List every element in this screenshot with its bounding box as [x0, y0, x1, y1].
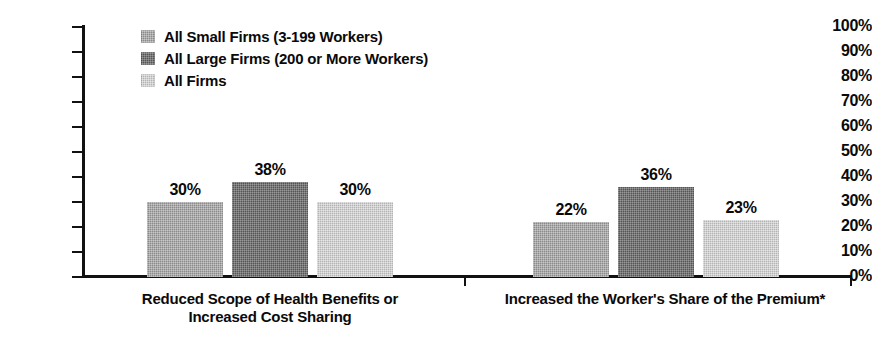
bar-value-label: 23% — [725, 199, 756, 217]
y-axis-label-70: 70% — [810, 92, 872, 110]
bar-group2-small-firms: 22% — [533, 222, 609, 277]
y-axis-tick — [72, 226, 82, 228]
category-label-group1: Reduced Scope of Health Benefits or Incr… — [100, 290, 440, 326]
legend: All Small Firms (3-199 Workers) All Larg… — [141, 25, 428, 91]
y-axis-tick — [72, 176, 82, 178]
y-axis-label-90: 90% — [810, 42, 872, 60]
y-axis-label-30: 30% — [810, 192, 872, 210]
bar-chart: 100% 90% 80% 70% 60% 50% 40% 30% 20% 10%… — [0, 0, 872, 346]
y-axis-label-20: 20% — [810, 217, 872, 235]
bar-group1-all-firms: 30% — [317, 202, 393, 277]
legend-label-all-firms: All Firms — [164, 72, 226, 89]
category-label-group2-line1: Increased the Worker's Share of the Prem… — [470, 290, 860, 308]
y-axis-tick — [72, 76, 82, 78]
bar-group1-large-firms: 38% — [232, 182, 308, 277]
bar-value-label: 36% — [640, 166, 671, 184]
y-axis-label-40: 40% — [810, 167, 872, 185]
y-axis-label-10: 10% — [810, 242, 872, 260]
y-axis-tick — [72, 101, 82, 103]
x-axis-end-tick — [850, 277, 852, 286]
y-axis-line — [82, 25, 85, 277]
y-axis-tick — [72, 251, 82, 253]
y-axis-tick — [72, 26, 82, 28]
y-axis-tick — [72, 276, 82, 278]
y-axis-label-50: 50% — [810, 142, 872, 160]
category-label-group1-line1: Reduced Scope of Health Benefits or — [100, 290, 440, 308]
legend-label-small-firms: All Small Firms (3-199 Workers) — [164, 28, 383, 45]
legend-swatch-small-firms-icon — [141, 30, 155, 43]
y-axis-tick — [72, 151, 82, 153]
y-axis-tick — [72, 126, 82, 128]
bar-group1-small-firms: 30% — [147, 202, 223, 277]
bar-value-label: 30% — [169, 181, 200, 199]
legend-label-large-firms: All Large Firms (200 or More Workers) — [164, 50, 428, 67]
bar-value-label: 38% — [254, 161, 285, 179]
bar-group2-all-firms: 23% — [703, 220, 779, 277]
bar-value-label: 22% — [555, 201, 586, 219]
bar-value-label: 30% — [339, 181, 370, 199]
legend-item-large-firms: All Large Firms (200 or More Workers) — [141, 47, 428, 69]
y-axis-label-60: 60% — [810, 117, 872, 135]
y-axis-tick — [72, 51, 82, 53]
y-axis-label-100: 100% — [810, 17, 872, 35]
category-label-group1-line2: Increased Cost Sharing — [100, 308, 440, 326]
legend-item-small-firms: All Small Firms (3-199 Workers) — [141, 25, 428, 47]
y-axis-tick — [72, 201, 82, 203]
legend-item-all-firms: All Firms — [141, 69, 428, 91]
y-axis-label-0: 0% — [810, 267, 872, 285]
y-axis-label-80: 80% — [810, 67, 872, 85]
legend-swatch-large-firms-icon — [141, 52, 155, 65]
legend-swatch-all-firms-icon — [141, 74, 155, 87]
category-label-group2: Increased the Worker's Share of the Prem… — [470, 290, 860, 308]
x-axis-group-separator-tick — [464, 277, 466, 286]
bar-group2-large-firms: 36% — [618, 187, 694, 277]
